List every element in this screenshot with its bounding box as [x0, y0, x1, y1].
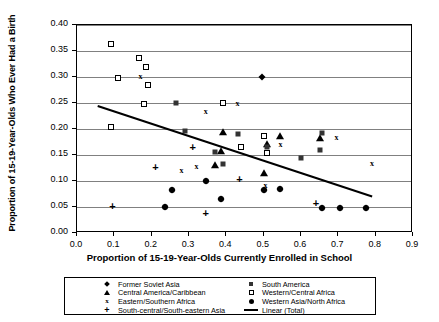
x-tick-mark — [263, 232, 264, 236]
data-point — [169, 187, 175, 193]
y-tick-label: 0.40 — [34, 18, 68, 28]
x-tick-label: 0.2 — [136, 239, 166, 249]
legend-item: Western/Central Africa — [243, 289, 345, 298]
x-tick-mark — [188, 232, 189, 236]
data-point — [162, 204, 168, 210]
x-tick-mark — [337, 232, 338, 236]
data-point — [136, 55, 142, 61]
data-point — [319, 131, 324, 136]
data-point — [264, 150, 270, 156]
circle-filled-icon — [243, 297, 259, 305]
data-point — [173, 101, 178, 106]
data-point — [108, 41, 114, 47]
x-tick-mark — [76, 232, 77, 236]
y-tick-label: 0.00 — [34, 226, 68, 236]
gridline — [77, 51, 411, 52]
x-tick-label: 0.9 — [397, 239, 427, 249]
data-point — [220, 100, 226, 106]
x-tick-label: 0.8 — [360, 239, 390, 249]
y-tick-label: 0.15 — [34, 148, 68, 158]
data-point — [299, 155, 304, 160]
x-tick-label: 0.5 — [248, 239, 278, 249]
data-point — [108, 124, 114, 130]
legend-item: Western Asia/North Africa — [243, 297, 345, 306]
legend-item: +South-central/South-eastern Asia — [99, 306, 225, 315]
data-point — [218, 196, 224, 202]
data-point: x — [204, 108, 208, 116]
data-point — [319, 205, 325, 211]
line-icon — [243, 306, 259, 314]
data-point: + — [190, 142, 196, 153]
data-point — [213, 150, 218, 155]
legend-item: Central America/Caribbean — [99, 289, 225, 298]
x-tick-mark — [412, 232, 413, 236]
data-point: x — [138, 73, 142, 81]
triangle-filled-icon — [99, 289, 115, 297]
gridline — [77, 77, 411, 78]
legend-item: Linear (Total) — [243, 306, 345, 315]
data-point — [277, 186, 283, 192]
chart-root: Proportion of 15-19-Year-Olds Who Ever H… — [0, 0, 439, 322]
data-point — [337, 205, 343, 211]
data-point — [265, 144, 270, 149]
data-point — [235, 132, 240, 137]
square-filled-icon — [243, 280, 259, 288]
gridline — [77, 129, 411, 130]
data-point — [220, 161, 225, 166]
data-point: x — [236, 100, 240, 108]
data-point: + — [152, 162, 158, 173]
data-point — [115, 75, 121, 81]
data-point: x — [194, 163, 198, 171]
legend-item: South America — [243, 280, 345, 289]
data-point — [141, 101, 147, 107]
x-tick-mark — [225, 232, 226, 236]
legend: Former Soviet AsiaCentral America/Caribb… — [64, 277, 376, 315]
x-tick-label: 0.1 — [98, 239, 128, 249]
gridline — [77, 207, 411, 208]
y-tick-label: 0.20 — [34, 122, 68, 132]
data-point: x — [278, 140, 282, 148]
data-point: x — [370, 160, 374, 168]
x-tick-label: 0.0 — [61, 239, 91, 249]
data-point — [219, 128, 227, 135]
legend-item: Former Soviet Asia — [99, 280, 225, 289]
legend-column-right: South AmericaWestern/Central AfricaWeste… — [243, 280, 345, 314]
y-axis-title: Proportion of 15-19-Year-Olds Who Ever H… — [7, 3, 17, 243]
data-point: + — [203, 208, 209, 219]
data-point — [260, 169, 268, 176]
square-open-icon — [243, 289, 259, 297]
data-point: x — [180, 166, 184, 174]
diamond-filled-icon — [99, 280, 115, 288]
x-tick-label: 0.6 — [285, 239, 315, 249]
data-point — [276, 132, 284, 139]
data-point: x — [334, 134, 338, 142]
x-tick-mark — [300, 232, 301, 236]
data-point — [317, 147, 322, 152]
data-point — [363, 205, 369, 211]
data-point — [238, 144, 244, 150]
x-axis-title: Proportion of 15-19-Year-Olds Currently … — [0, 252, 439, 263]
data-point: + — [109, 201, 115, 212]
y-tick-label: 0.05 — [34, 200, 68, 210]
data-point — [258, 73, 265, 80]
x-tick-label: 0.4 — [210, 239, 240, 249]
legend-label: Linear (Total) — [259, 306, 305, 315]
data-point — [211, 161, 219, 168]
data-point: + — [236, 175, 242, 186]
y-tick-label: 0.25 — [34, 96, 68, 106]
data-point — [143, 64, 149, 70]
y-tick-label: 0.30 — [34, 70, 68, 80]
data-point — [261, 187, 267, 193]
y-tick-label: 0.35 — [34, 44, 68, 54]
trendline-segment — [97, 105, 372, 197]
data-point — [145, 82, 151, 88]
y-axis-title-wrap: Proportion of 15-19-Year-Olds Who Ever H… — [0, 0, 22, 258]
x-tick-mark — [375, 232, 376, 236]
x-tick-label: 0.3 — [173, 239, 203, 249]
legend-item: xEastern/Southern Africa — [99, 297, 225, 306]
plus-icon: + — [99, 306, 115, 314]
gridline — [77, 103, 411, 104]
x-tick-mark — [151, 232, 152, 236]
legend-column-left: Former Soviet AsiaCentral America/Caribb… — [99, 280, 225, 314]
gridline — [77, 181, 411, 182]
